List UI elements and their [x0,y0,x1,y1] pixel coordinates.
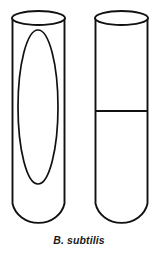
dividing-cell-top-rim [95,11,148,25]
figure-caption: B. subtilis [0,234,158,246]
sporulating-cell-top-rim [12,11,65,25]
endospore-icon [18,30,58,184]
figure-root: B. subtilis [0,0,158,257]
sporulating-cell [12,11,65,223]
cell-diagram [0,0,158,257]
dividing-cell [95,11,148,223]
dividing-cell-body [96,18,148,223]
